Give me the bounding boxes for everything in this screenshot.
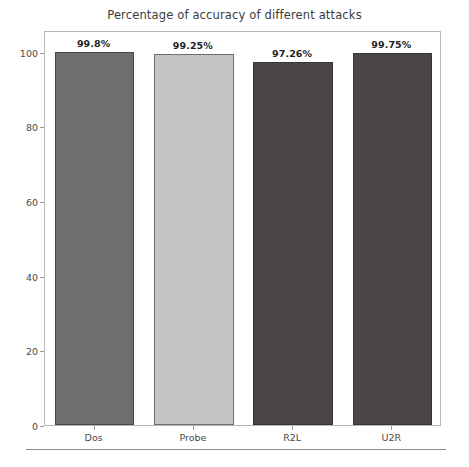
bar-value-label: 99.25% [153, 40, 232, 51]
page-divider-rule [26, 449, 446, 450]
chart-figure: Percentage of accuracy of different atta… [0, 0, 469, 467]
y-tick-label-60: 60 [0, 196, 38, 207]
plot-area [44, 31, 441, 426]
x-tick-mark [292, 426, 293, 430]
x-tick-mark [391, 426, 392, 430]
x-tick-label-probe: Probe [179, 432, 206, 443]
y-tick-mark [40, 426, 44, 427]
x-tick-label-r2l: R2L [283, 432, 301, 443]
x-tick-label-dos: Dos [85, 432, 103, 443]
chart-title: Percentage of accuracy of different atta… [0, 8, 469, 22]
bar-r2l [253, 62, 332, 425]
x-tick-label-u2r: U2R [382, 432, 402, 443]
y-tick-label-0: 0 [0, 421, 38, 432]
bars-layer [45, 32, 440, 425]
y-tick-label-100: 100 [0, 47, 38, 58]
y-tick-label-80: 80 [0, 122, 38, 133]
y-tick-label-40: 40 [0, 271, 38, 282]
bar-probe [154, 54, 233, 425]
y-tick-label-20: 20 [0, 346, 38, 357]
x-tick-mark [94, 426, 95, 430]
bar-value-label: 99.75% [352, 39, 431, 50]
bar-value-label: 99.8% [54, 38, 133, 49]
bar-u2r [353, 53, 432, 425]
bar-value-label: 97.26% [252, 48, 331, 59]
bar-dos [55, 52, 134, 425]
x-tick-mark [193, 426, 194, 430]
